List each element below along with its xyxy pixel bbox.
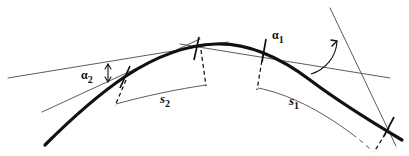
label-alpha-2: α2 [81, 66, 93, 82]
dash-s2-right [201, 50, 206, 86]
arc-s1-tail [352, 134, 372, 151]
label-alpha-1: α1 [272, 26, 284, 42]
main-curve [45, 44, 402, 145]
label-s-1-subscript: 1 [294, 100, 299, 111]
tick-left [120, 66, 130, 88]
label-alpha-2-base: α [81, 68, 88, 82]
label-alpha-1-subscript: 1 [279, 34, 284, 45]
label-s-2: s2 [160, 90, 170, 106]
figure-canvas: α1 α2 s1 s2 [0, 0, 409, 156]
arc-s1 [258, 88, 352, 134]
dashed-tick-group [115, 50, 389, 152]
tick-mid-right [262, 39, 266, 62]
diagram-svg [0, 0, 409, 156]
label-alpha-1-base: α [272, 28, 279, 42]
tangent-apex [180, 44, 390, 78]
label-alpha-2-subscript: 2 [88, 74, 93, 85]
angle-alpha2-mark [105, 64, 111, 82]
label-s-1: s1 [289, 92, 299, 108]
label-s-2-subscript: 2 [165, 98, 170, 109]
